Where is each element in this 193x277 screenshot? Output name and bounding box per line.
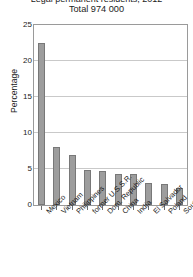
x-axis-tick-label: El Salvador bbox=[152, 210, 158, 216]
chart-title-block: Legal permanent residents, 2012 Total 97… bbox=[0, 0, 193, 15]
x-axis-tick-label: Poland bbox=[167, 210, 173, 216]
y-axis-tick-label: 5 bbox=[8, 165, 32, 173]
bar bbox=[38, 43, 45, 205]
bar-slot bbox=[65, 25, 80, 205]
x-axis-tick-label: China bbox=[121, 210, 127, 216]
x-axis-tick-label: Dom. Republic bbox=[106, 210, 112, 216]
y-axis-tick-label: 25 bbox=[8, 21, 32, 29]
bar-chart-figure: Legal permanent residents, 2012 Total 97… bbox=[0, 0, 193, 277]
x-axis-tick-label: former U.S.S.R. bbox=[91, 210, 97, 216]
bar-slot bbox=[95, 25, 110, 205]
x-axis-tick-label: Vietnam bbox=[60, 210, 66, 216]
bar-slot bbox=[141, 25, 156, 205]
x-axis-tick-labels: MexicoVietnamPhilippinesformer U.S.S.R.D… bbox=[34, 210, 187, 276]
bar-slot bbox=[172, 25, 187, 205]
y-axis-tick-label: 20 bbox=[8, 57, 32, 65]
x-axis-tick-label: Mexico bbox=[45, 210, 51, 216]
bar-slot bbox=[34, 25, 49, 205]
bars-container bbox=[34, 25, 187, 205]
bar-slot bbox=[156, 25, 171, 205]
bar-slot bbox=[80, 25, 95, 205]
x-axis-tick-label: South Korea bbox=[182, 210, 188, 216]
x-axis-tick-label: India bbox=[136, 210, 142, 216]
bar-slot bbox=[49, 25, 64, 205]
y-axis-tick-label: 10 bbox=[8, 129, 32, 137]
chart-subtitle: Total 974 000 bbox=[0, 4, 193, 15]
y-axis-tick-label: 0 bbox=[8, 201, 32, 209]
y-axis-tick-label: 15 bbox=[8, 93, 32, 101]
x-axis-tick-label: Philippines bbox=[75, 210, 81, 216]
y-axis-title: Percentage bbox=[9, 41, 19, 141]
